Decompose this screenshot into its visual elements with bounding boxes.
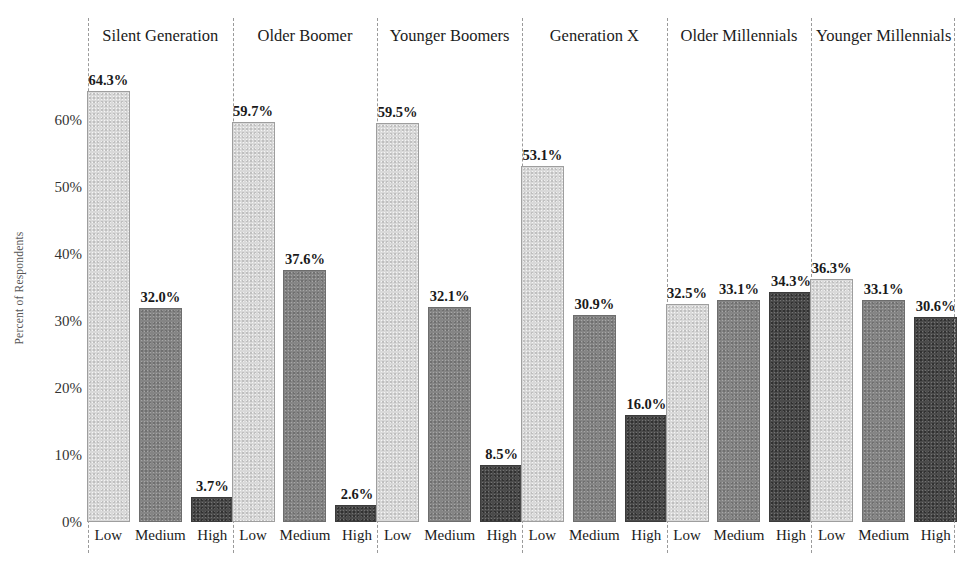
panel-younger-millennials: Younger Millennials36.3%Low33.1%Medium30… <box>811 0 956 575</box>
bar-value-label: 30.9% <box>557 296 632 313</box>
bar-high[interactable] <box>191 497 234 522</box>
bar-low[interactable] <box>666 304 709 522</box>
bar-group-item: 3.7%High <box>191 497 234 522</box>
x-axis-tick-high: High <box>900 527 961 544</box>
bar-group-item: 16.0%High <box>625 415 668 522</box>
bar-value-label: 37.6% <box>267 251 342 268</box>
panel-silent-generation: Silent Generation64.3%Low32.0%Medium3.7%… <box>88 0 233 575</box>
bar-medium[interactable] <box>717 300 760 522</box>
bar-value-label: 64.3% <box>71 72 146 89</box>
y-axis-tick-30pct: 30% <box>55 313 83 330</box>
bar-medium[interactable] <box>573 315 616 522</box>
bar-group-item: 33.1%Medium <box>717 300 760 522</box>
panel-title: Generation X <box>522 26 667 46</box>
bar-high[interactable] <box>480 465 523 522</box>
panel-generation-x: Generation X53.1%Low30.9%Medium16.0%High <box>522 0 667 575</box>
bar-medium[interactable] <box>283 270 326 522</box>
bar-group-item: 32.1%Medium <box>428 307 471 522</box>
panel-younger-boomers: Younger Boomers59.5%Low32.1%Medium8.5%Hi… <box>377 0 522 575</box>
panel-older-millennials: Older Millennials32.5%Low33.1%Medium34.3… <box>667 0 812 575</box>
y-axis-tick-20pct: 20% <box>55 380 83 397</box>
bar-medium[interactable] <box>428 307 471 522</box>
bar-low[interactable] <box>521 166 564 522</box>
bar-group-item: 36.3%Low <box>810 279 853 522</box>
bar-low[interactable] <box>87 91 130 522</box>
bar-group-item: 32.5%Low <box>666 304 709 522</box>
bar-group-item: 59.5%Low <box>376 123 419 522</box>
panel-title: Younger Boomers <box>377 26 522 46</box>
bar-low[interactable] <box>810 279 853 522</box>
bar-value-label: 32.0% <box>123 289 198 306</box>
bar-group-item: 8.5%High <box>480 465 523 522</box>
bar-value-label: 53.1% <box>505 147 580 164</box>
y-axis-title-label: Percent of Respondents <box>12 231 24 344</box>
panel-title: Silent Generation <box>88 26 233 46</box>
bar-group-item: 34.3%High <box>769 292 812 522</box>
y-axis-tick-40pct: 40% <box>55 246 83 263</box>
bar-group-item: 30.9%Medium <box>573 315 616 522</box>
y-axis-tick-10pct: 10% <box>55 447 83 464</box>
y-axis-tick-50pct: 50% <box>55 179 83 196</box>
panel-title: Older Millennials <box>667 26 812 46</box>
bar-value-label: 32.1% <box>412 288 487 305</box>
panel-title: Older Boomer <box>233 26 378 46</box>
panel-title: Younger Millennials <box>811 26 956 46</box>
bar-medium[interactable] <box>862 300 905 522</box>
bar-low[interactable] <box>232 122 275 522</box>
bar-high[interactable] <box>625 415 668 522</box>
y-axis-tick-60pct: 60% <box>55 112 83 129</box>
bar-value-label: 59.7% <box>216 103 291 120</box>
bar-value-label: 33.1% <box>846 281 921 298</box>
bar-value-label: 36.3% <box>794 260 869 277</box>
bar-value-label: 30.6% <box>898 298 961 315</box>
bar-high[interactable] <box>769 292 812 522</box>
bar-group-item: 53.1%Low <box>521 166 564 522</box>
bar-group-item: 30.6%High <box>914 317 957 522</box>
bar-high[interactable] <box>335 505 378 522</box>
bar-value-label: 59.5% <box>360 104 435 121</box>
bar-group-item: 33.1%Medium <box>862 300 905 522</box>
plot-area: Silent Generation64.3%Low32.0%Medium3.7%… <box>88 0 956 575</box>
bar-group-item: 2.6%High <box>335 505 378 522</box>
panel-divider <box>954 18 955 553</box>
panel-older-boomer: Older Boomer59.7%Low37.6%Medium2.6%High <box>233 0 378 575</box>
bar-group-item: 59.7%Low <box>232 122 275 522</box>
bar-group-item: 64.3%Low <box>87 91 130 522</box>
bar-group-item: 37.6%Medium <box>283 270 326 522</box>
bar-low[interactable] <box>376 123 419 522</box>
bar-high[interactable] <box>914 317 957 522</box>
